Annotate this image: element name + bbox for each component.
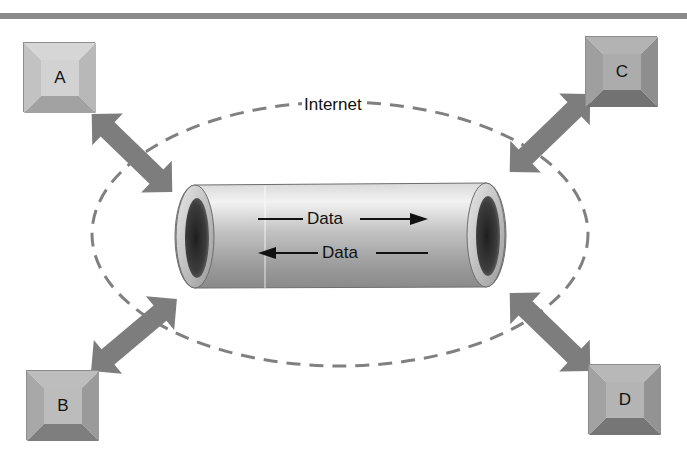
node-a-label: A [41,60,79,96]
diagram-canvas [0,0,687,464]
node-d-label: D [606,382,644,418]
node-c-label: C [603,54,641,90]
arrow-a-pipe [76,98,187,207]
node-d: D [588,364,660,434]
data-forward-label: Data [307,209,343,229]
internet-label: Internet [302,95,364,115]
data-reverse-label: Data [322,243,358,263]
node-b: B [26,370,98,440]
node-a: A [23,42,95,112]
node-b-label: B [44,388,82,424]
data-pipe [175,183,506,288]
node-c: C [585,36,657,106]
